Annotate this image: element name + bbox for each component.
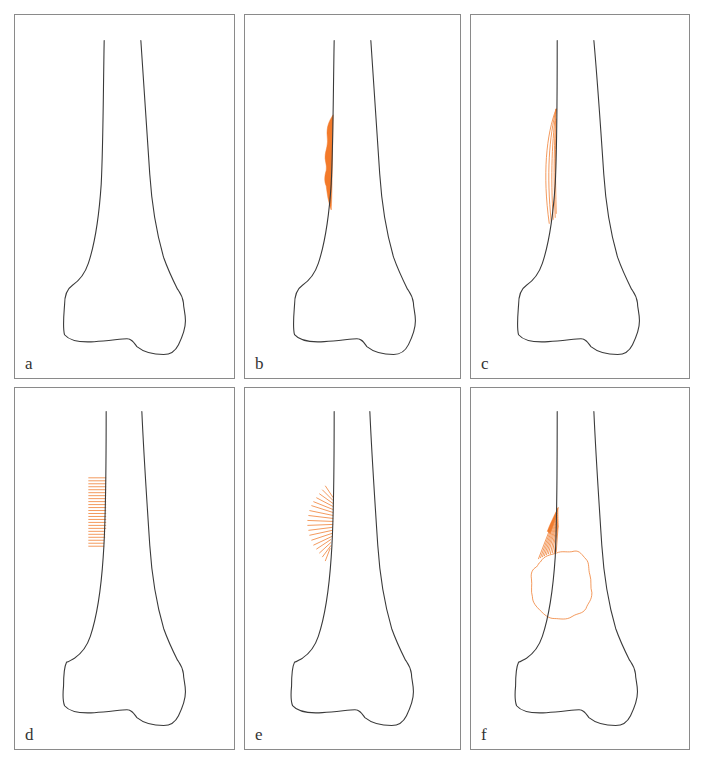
panel-label: b (255, 355, 264, 372)
bone-outline-diagram (15, 15, 234, 378)
hair-on-end-spiculation (88, 478, 106, 546)
bone-outline-diagram (245, 388, 460, 749)
panel-label: c (481, 355, 489, 372)
panel-c: c (470, 14, 690, 379)
bone-left-cortex (517, 40, 639, 354)
panel-label: d (25, 726, 34, 743)
panel-label: a (25, 355, 33, 372)
panel-label: f (481, 726, 487, 743)
bone-left-cortex (291, 411, 414, 725)
soft-tissue-mass (531, 551, 592, 619)
bone-outline-diagram (15, 388, 234, 749)
bone-left-cortex (63, 40, 185, 354)
panel-d: d (14, 387, 235, 750)
bone-outline-diagram (471, 15, 689, 378)
panel-a: a (14, 14, 235, 379)
bone-left-cortex (63, 411, 186, 725)
panel-e: e (244, 387, 461, 750)
bone-left-cortex (293, 40, 415, 354)
panel-b: b (244, 14, 461, 379)
panel-label: e (255, 726, 263, 743)
bone-outline-diagram (471, 388, 689, 749)
panel-f: f (470, 387, 690, 750)
lamellated-periosteal-reaction (546, 109, 556, 224)
bone-left-cortex (515, 411, 638, 725)
sunburst-spiculation (307, 486, 333, 561)
bone-outline-diagram (245, 15, 460, 378)
